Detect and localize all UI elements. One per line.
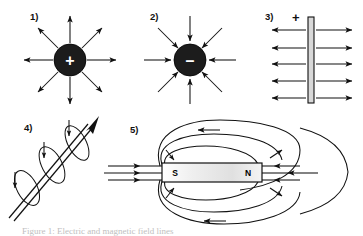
charge-sign-minus: – [186,52,195,69]
inner-loop-top [161,134,282,167]
field-ray-outward [38,72,58,92]
figure-caption-text: Figure 1: Electric and magnetic field li… [22,227,173,236]
plate-polarity-label: + [292,10,300,25]
field-ray-outward [38,28,58,48]
field-loop [34,143,70,188]
panel-negative-point-charge: 2) – [144,11,236,104]
field-ray-inward [158,28,178,48]
charged-plate-body [308,17,314,103]
physics-figure-sheet: 1) + 2) [0,0,363,236]
far-right-loop-bottom [300,172,348,214]
figure-canvas: 1) + 2) [0,0,363,236]
wire-conductor [9,116,99,221]
outer-loop-bottom [158,180,300,224]
wire-field-loops [9,120,94,209]
panel-charged-plate: 3) + [265,10,352,103]
charge-sign-plus: + [65,52,74,69]
panel-5-label: 5) [130,124,138,135]
panel-1-label: 1) [30,11,38,22]
figure-caption: Figure 1: Electric and magnetic field li… [0,227,363,236]
north-pole-label: N [245,168,251,178]
panel-bar-magnet: 5) [104,120,348,224]
field-ray-inward [202,28,222,48]
inner-loop-bottom [161,179,282,212]
panel-4-label: 4) [24,122,32,133]
panel-positive-point-charge: 1) + [24,11,116,104]
current-direction-arrowhead [86,116,99,134]
field-ray-inward [202,72,222,92]
panel-2-label: 2) [150,11,158,22]
wire-edge [14,127,93,221]
panel-current-carrying-wire: 4) [9,116,99,221]
field-ray-outward [82,72,102,92]
field-ray-inward [158,72,178,92]
field-ray-outward [82,28,102,48]
right-upper-loop-arrow [270,150,282,158]
outer-loop-top [158,120,300,166]
right-lower-loop-arrow [270,188,282,196]
far-right-loop-top [300,128,348,172]
south-pole-label: S [172,168,178,178]
panel-3-label: 3) [265,11,273,22]
